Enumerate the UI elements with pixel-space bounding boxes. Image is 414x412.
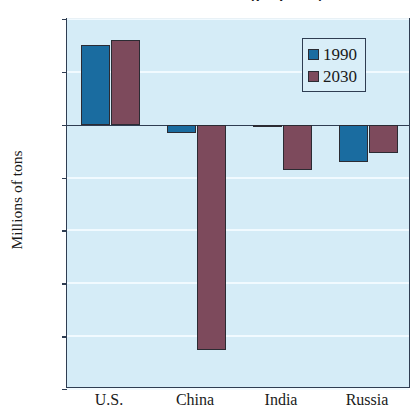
bar-group xyxy=(67,19,153,387)
x-tick-label: U.S. xyxy=(59,391,159,409)
bar-2030-India xyxy=(283,125,312,170)
bar-2030-Russia xyxy=(369,125,398,154)
bar-group xyxy=(153,19,239,387)
x-tick-label: China xyxy=(145,391,245,409)
x-tick-label: Russia xyxy=(317,391,414,409)
bar-2030-US xyxy=(111,40,140,125)
legend-swatch-1990 xyxy=(308,49,319,60)
x-tick-label: India xyxy=(231,391,331,409)
legend-label-2030: 2030 xyxy=(323,68,357,85)
bar-2030-China xyxy=(197,125,226,350)
chart-title: 1990 and 2030 (projected) xyxy=(66,0,410,1)
bar-1990-China xyxy=(167,125,196,133)
bar-1990-US xyxy=(81,45,110,124)
bar-1990-India xyxy=(253,125,282,127)
legend-label-1990: 1990 xyxy=(323,46,357,63)
gridline xyxy=(67,388,409,390)
legend-item[interactable]: 1990 xyxy=(308,43,357,65)
y-axis-title: Millions of tons xyxy=(8,90,26,310)
legend-swatch-2030 xyxy=(308,71,319,82)
bar-1990-Russia xyxy=(339,125,368,162)
legend-item[interactable]: 2030 xyxy=(308,65,357,87)
chart-figure: 1990 and 2030 (projected) Millions of to… xyxy=(0,0,414,412)
chart-legend: 1990 2030 xyxy=(302,38,366,92)
